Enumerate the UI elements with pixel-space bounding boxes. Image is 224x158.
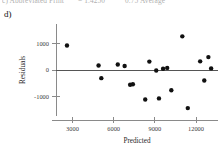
scatter-point: [122, 64, 126, 68]
x-tick-label: 6000: [107, 125, 120, 132]
chart-render-layer: 10000-1000Residuals30006000900012000Pred…: [19, 24, 218, 145]
scatter-point: [65, 43, 69, 47]
scatter-point: [165, 66, 169, 70]
clipped-equals: = 1.4250: [78, 0, 105, 5]
scatter-point: [161, 66, 165, 70]
scatter-point: [154, 68, 158, 72]
scatter-point: [157, 96, 161, 100]
y-axis-title: Residuals: [19, 56, 27, 84]
residual-scatter-chart: 10000-1000Residuals30006000900012000Pred…: [0, 16, 224, 158]
scatter-point: [206, 55, 210, 59]
y-tick-label: 0: [46, 66, 49, 73]
x-tick-label: 3000: [66, 125, 79, 132]
scatter-point: [99, 76, 103, 80]
scatter-point: [198, 59, 202, 63]
scatter-point: [131, 82, 135, 86]
scatter-point: [143, 97, 147, 101]
scatter-point: [202, 78, 206, 82]
scatter-point: [180, 34, 184, 38]
x-tick-label: 12000: [188, 125, 204, 132]
y-tick-label: 1000: [36, 40, 49, 47]
scatter-point: [209, 66, 213, 70]
scatter-point: [169, 88, 173, 92]
scatter-point: [116, 62, 120, 66]
figure-page: c) Abbreviated Print= 1.42500.75 Average…: [0, 0, 224, 158]
clipped-trailing: 0.75 Average: [125, 0, 165, 5]
x-tick-label: 9000: [148, 125, 161, 132]
clipped-previous-text-line: c) Abbreviated Print= 1.42500.75 Average: [2, 0, 222, 5]
clipped-label: c) Abbreviated Print: [2, 0, 64, 5]
y-tick-label: -1000: [34, 93, 49, 100]
residual-plot-figure: 10000-1000Residuals30006000900012000Pred…: [0, 16, 224, 158]
scatter-point: [186, 106, 190, 110]
scatter-point: [147, 59, 151, 63]
x-axis-title: Predicted: [123, 137, 151, 145]
scatter-point: [96, 63, 100, 67]
